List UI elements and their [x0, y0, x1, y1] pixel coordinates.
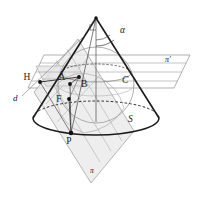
label-point-c: C [122, 75, 129, 85]
point-marker-p [69, 131, 74, 136]
point-marker-apex [94, 16, 97, 19]
point-marker-f [67, 97, 71, 101]
point-marker-a [68, 82, 72, 86]
label-plane-pi: π [90, 166, 94, 175]
point-marker-h [38, 80, 42, 84]
label-line-d: d [13, 93, 18, 103]
label-sphere-s: S [128, 114, 133, 124]
label-plane-pi-prime: π′ [165, 55, 171, 64]
geometry-figure: α H A B C F P S π π′ d [0, 0, 198, 198]
figure-canvas: α H A B C F P S π π′ d [0, 0, 198, 198]
label-point-f: F [56, 94, 61, 104]
label-point-h: H [24, 72, 31, 82]
label-angle-alpha: α [120, 25, 126, 35]
label-point-b: B [81, 79, 87, 89]
label-point-a: A [59, 72, 66, 82]
label-point-p: P [66, 136, 71, 146]
